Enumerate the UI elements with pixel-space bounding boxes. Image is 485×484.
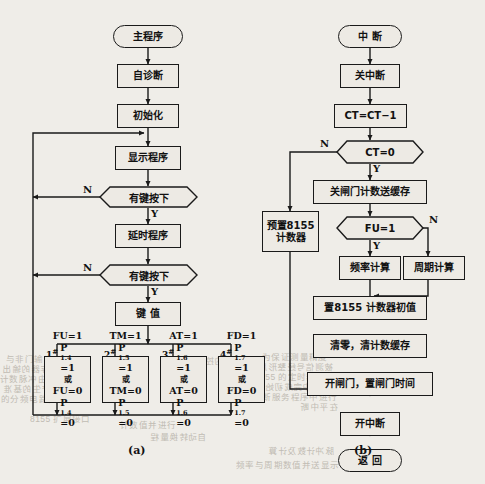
key-branch-line: P1.5=1 — [118, 342, 133, 375]
node-b-enable-int-label: 开中断 — [355, 418, 385, 430]
key-branch-tag-hash: # — [168, 347, 174, 356]
key-branch-box-4[interactable]: FD=1P1.7=1或FD=0P1.7=0 — [218, 356, 265, 403]
node-a-keyvalue-label: 键 值 — [136, 308, 159, 320]
node-b-disable-int-label: 关中断 — [355, 70, 385, 82]
node-b-fu-flag[interactable]: FU=1 — [336, 216, 424, 240]
node-b-preset-8155-line2: 计数器 — [276, 232, 306, 244]
key-branch-line: 或 — [64, 374, 72, 384]
scan-artifact: 频率与周期数值并送显示 — [236, 458, 339, 470]
key-branch-line: P1.7=1 — [234, 342, 249, 375]
node-a-keypress-2-label: 有键按下 — [129, 268, 169, 283]
key-branch-box-3[interactable]: AT=1P1.6=1或AT=0P1.6=0 — [160, 356, 207, 403]
node-b-start-label: 中 断 — [358, 31, 381, 43]
key-branch-line: TM=1 — [109, 330, 141, 342]
node-b-set-counter-init-label: 置8155 计数器初值 — [324, 302, 415, 314]
key-branch-line: 或 — [122, 374, 130, 384]
key-branch-line: AT=0 — [169, 385, 198, 397]
node-b-clear[interactable]: 清零，清计数缓存 — [313, 334, 427, 358]
branch-label-a-y1: Y — [151, 208, 158, 219]
node-b-freq-calc-label: 频率计算 — [350, 262, 390, 274]
key-branch-box-1[interactable]: FU=1P1.4=1或FU=0P1.4=0 — [44, 356, 91, 403]
node-b-open-gate[interactable]: 开闸门，置闸门时间 — [307, 372, 433, 396]
node-b-ct-zero[interactable]: CT=0 — [336, 140, 424, 164]
figure-canvas: 与非门输出数据锁存器的输出计数脉冲由闸门控制时钟电路产生的基准的分频电路，可产生… — [0, 0, 485, 484]
node-a-delay-label: 延时程序 — [128, 230, 168, 242]
key-branch-tag-hash: # — [110, 347, 116, 356]
node-a-display-label: 显示程序 — [128, 152, 168, 164]
key-branch-tag-hash: # — [52, 347, 58, 356]
node-b-start[interactable]: 中 断 — [338, 25, 402, 48]
node-b-gate-close-label: 关闸门计数送缓存 — [330, 186, 410, 198]
node-a-init-label: 初始化 — [133, 110, 163, 122]
key-branch-line: 或 — [180, 374, 188, 384]
node-b-fu-flag-label: FU=1 — [365, 223, 395, 234]
node-a-start[interactable]: 主程序 — [113, 25, 183, 48]
node-b-period-calc-label: 周期计算 — [414, 262, 454, 274]
branch-label-b-n2: N — [429, 214, 438, 225]
caption-a: (a) — [128, 444, 146, 457]
scan-artifact: 自动转换量程 — [150, 430, 206, 442]
node-a-keypress-2[interactable]: 有键按下 — [99, 264, 198, 286]
node-b-preset-8155[interactable]: 预置8155 计数器 — [262, 211, 319, 252]
key-branch-line: AT=1 — [169, 330, 198, 342]
node-b-gate-close[interactable]: 关闸门计数送缓存 — [313, 180, 427, 204]
node-a-keyvalue[interactable]: 键 值 — [115, 302, 181, 326]
node-a-selftest-label: 自诊断 — [133, 70, 163, 82]
node-b-enable-int[interactable]: 开中断 — [340, 412, 400, 436]
scan-artifact: 在平中断 — [300, 400, 338, 412]
branch-label-a-n2: N — [83, 262, 92, 273]
key-branch-line: P1.5=0 — [118, 397, 133, 430]
node-a-selftest[interactable]: 自诊断 — [117, 64, 179, 88]
node-b-disable-int[interactable]: 关中断 — [340, 64, 400, 88]
node-b-clear-label: 清零，清计数缓存 — [330, 340, 410, 352]
node-b-period-calc[interactable]: 周期计算 — [403, 256, 465, 280]
node-a-keypress-1-label: 有键按下 — [129, 190, 169, 205]
node-a-init[interactable]: 初始化 — [117, 104, 179, 128]
scan-artifact: 被测信号经整形后 — [258, 360, 333, 372]
branch-label-a-n1: N — [83, 184, 92, 195]
branch-label-a-y2: Y — [151, 286, 158, 297]
node-b-ct-zero-label: CT=0 — [365, 147, 395, 158]
node-b-open-gate-label: 开闸门，置闸门时间 — [325, 378, 415, 390]
key-branch-line: FD=0 — [227, 385, 257, 397]
node-a-start-label: 主程序 — [133, 31, 163, 43]
node-a-keypress-1[interactable]: 有键按下 — [99, 186, 198, 208]
key-branch-line: 或 — [238, 374, 246, 384]
key-branch-line: TM=0 — [109, 385, 141, 397]
key-branch-tag-hash: # — [226, 347, 232, 356]
node-b-set-counter-init[interactable]: 置8155 计数器初值 — [313, 296, 427, 320]
key-branch-line: FU=0 — [53, 385, 83, 397]
key-branch-line: FD=1 — [227, 330, 257, 342]
node-b-freq-calc[interactable]: 频率计算 — [339, 256, 401, 280]
branch-label-b-n1: N — [320, 138, 329, 149]
branch-label-b-y1: Y — [373, 163, 380, 174]
caption-b: (b) — [354, 444, 372, 457]
key-branch-line: P1.4=0 — [60, 397, 75, 430]
branch-label-b-y2: Y — [373, 240, 380, 251]
key-branch-line: P1.6=0 — [176, 397, 191, 430]
node-b-preset-8155-line1: 预置8155 — [267, 220, 315, 232]
node-a-display[interactable]: 显示程序 — [115, 146, 181, 170]
scan-artifact: 脉冲计数及计算 — [268, 444, 334, 456]
key-branch-line: P1.6=1 — [176, 342, 191, 375]
node-b-decrement[interactable]: CT=CT−1 — [334, 104, 407, 128]
key-branch-line: P1.7=0 — [234, 397, 249, 430]
node-b-decrement-label: CT=CT−1 — [344, 110, 396, 122]
key-branch-box-2[interactable]: TM=1P1.5=1或TM=0P1.5=0 — [102, 356, 149, 403]
key-branch-line: FU=1 — [53, 330, 83, 342]
key-branch-line: P1.4=1 — [60, 342, 75, 375]
node-a-delay[interactable]: 延时程序 — [115, 224, 181, 248]
